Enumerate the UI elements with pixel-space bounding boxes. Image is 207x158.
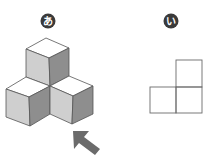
view-direction-arrow-icon (73, 131, 100, 155)
grid-square-bottom-left (150, 87, 176, 113)
figure-b-label: い (164, 14, 179, 29)
cube-bottom-right (50, 76, 93, 124)
cube-stack (6, 38, 93, 126)
grid-square-top (176, 60, 202, 87)
projection-grid (150, 60, 202, 113)
grid-square-bottom-right (176, 87, 202, 113)
figure-a-label-text: あ (43, 15, 53, 27)
figure-b-label-text: い (166, 16, 176, 27)
figure-a-label: あ (41, 14, 56, 29)
cube-top (26, 38, 69, 86)
diagram-canvas: あ い (0, 0, 207, 158)
cube-bottom-left (6, 77, 50, 126)
